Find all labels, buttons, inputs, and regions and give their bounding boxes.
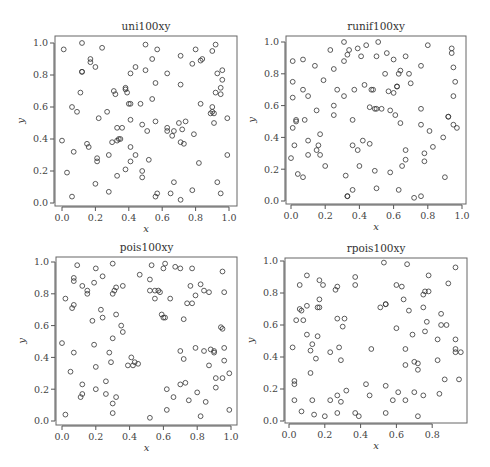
data-point	[378, 305, 383, 310]
data-point	[403, 148, 408, 153]
x-tick-label: 0.6	[389, 429, 404, 440]
data-point	[401, 297, 406, 302]
data-point	[227, 371, 232, 376]
data-point	[71, 149, 76, 154]
y-tick-label: 1.0	[264, 36, 279, 47]
data-point	[188, 284, 193, 289]
y-axis: 0.00.20.40.60.81.0	[263, 255, 284, 426]
data-point	[178, 197, 183, 202]
data-point	[306, 153, 311, 158]
data-point	[178, 382, 183, 387]
data-points	[60, 41, 230, 203]
data-point	[416, 367, 421, 372]
data-point	[308, 348, 313, 353]
data-point	[372, 168, 377, 173]
x-tick-label: 0.0	[54, 212, 69, 223]
data-point	[96, 116, 101, 121]
y-tick-label: 0.6	[263, 319, 278, 330]
data-point	[295, 172, 300, 177]
data-point	[391, 57, 396, 62]
data-point	[350, 143, 355, 148]
data-point	[170, 133, 175, 138]
data-point	[178, 349, 183, 354]
data-point	[364, 43, 369, 48]
data-point	[155, 47, 160, 52]
data-point	[292, 382, 297, 387]
y-tick-label: 0.2	[33, 165, 48, 176]
x-tick-label: 0.4	[122, 431, 137, 442]
data-point	[353, 283, 358, 288]
data-point	[301, 87, 306, 92]
data-point	[106, 153, 111, 158]
data-point	[80, 382, 85, 387]
y-tick-label: 0.4	[264, 132, 279, 143]
data-point	[115, 173, 120, 178]
data-point	[345, 194, 350, 199]
data-point	[342, 94, 347, 99]
data-point	[109, 360, 114, 365]
data-point	[317, 278, 322, 283]
x-tick-label: 0.8	[188, 212, 203, 223]
x-tick-label: 0.6	[155, 212, 170, 223]
data-point	[379, 106, 384, 111]
data-point	[100, 315, 105, 320]
data-point	[382, 260, 387, 265]
data-point	[153, 119, 158, 124]
y-axis-label: y	[245, 337, 256, 344]
data-point	[328, 350, 333, 355]
data-point	[181, 357, 186, 362]
y-tick-label: 0.4	[34, 352, 49, 363]
data-point	[331, 67, 336, 72]
panel-runif100xy: runif100xy0.00.20.40.60.81.0y0.00.20.40.…	[246, 20, 470, 232]
x-axis: 0.00.20.40.60.8	[281, 424, 439, 440]
data-point	[405, 262, 410, 267]
data-point	[399, 284, 404, 289]
x-tick-label: 0.8	[190, 431, 205, 442]
data-point	[95, 159, 100, 164]
data-point	[140, 169, 145, 174]
data-point	[218, 191, 223, 196]
data-point	[197, 161, 202, 166]
data-point	[210, 49, 215, 54]
data-point	[395, 84, 400, 89]
data-point	[60, 138, 65, 143]
y-axis: 0.00.20.40.60.81.0	[264, 36, 285, 206]
x-tick-label: 0.2	[88, 431, 103, 442]
x-tick-label: 1.0	[223, 431, 238, 442]
data-point	[225, 116, 230, 121]
y-tick-label: 0.4	[33, 133, 48, 144]
y-tick-label: 0.2	[263, 383, 278, 394]
data-point	[383, 71, 388, 76]
data-point	[419, 63, 424, 68]
data-point	[431, 145, 436, 150]
x-tick-label: 0.0	[283, 210, 298, 221]
data-point	[80, 284, 85, 289]
data-point	[193, 47, 198, 52]
data-point	[301, 175, 306, 180]
data-point	[316, 143, 321, 148]
data-point	[391, 91, 396, 96]
data-point	[63, 296, 68, 301]
data-point	[453, 79, 458, 84]
data-point	[190, 188, 195, 193]
data-point	[393, 113, 398, 118]
data-point	[435, 358, 440, 363]
data-point	[114, 312, 119, 317]
data-point	[446, 114, 451, 119]
data-point	[342, 59, 347, 64]
data-point	[342, 40, 347, 45]
data-point	[305, 303, 310, 308]
data-point	[360, 138, 365, 143]
y-tick-label: 0.0	[264, 195, 279, 206]
data-point	[318, 153, 323, 158]
data-point	[394, 326, 399, 331]
data-point	[115, 125, 120, 130]
data-point	[202, 349, 207, 354]
panel-pois100xy: pois100xy0.00.20.40.60.81.0y0.00.20.40.6…	[16, 241, 239, 453]
data-point	[63, 412, 68, 417]
data-point	[203, 400, 208, 405]
data-point	[153, 296, 158, 301]
data-point	[123, 167, 128, 172]
data-point	[213, 90, 218, 95]
data-point	[444, 323, 449, 328]
